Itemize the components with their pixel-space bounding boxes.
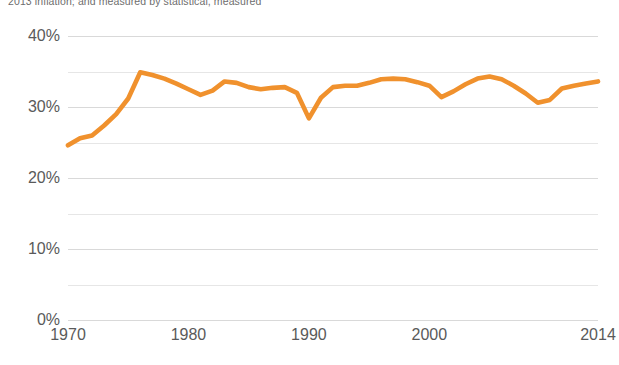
x-axis-tick-label: 1970 (28, 326, 108, 344)
x-axis-tick-label: 2000 (389, 326, 469, 344)
x-axis-tick-label: 2014 (558, 326, 619, 344)
line-chart: 2013 inflation; and measured by statisti… (0, 0, 619, 365)
x-axis-tick-label: 1990 (269, 326, 349, 344)
x-axis-tick-label: 1980 (148, 326, 228, 344)
y-axis-tick-label: 30% (10, 99, 60, 115)
y-axis-tick-label: 40% (10, 28, 60, 44)
series-line (68, 36, 598, 320)
y-axis-tick-label: 20% (10, 170, 60, 186)
y-axis-tick-label: 10% (10, 241, 60, 257)
gridline-major (68, 320, 598, 321)
plot-area (68, 36, 598, 320)
chart-caption: 2013 inflation; and measured by statisti… (8, 0, 608, 7)
